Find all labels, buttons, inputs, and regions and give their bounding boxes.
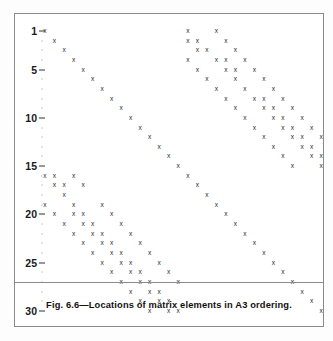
scatter-marker: x: [186, 57, 189, 64]
scatter-marker: x: [81, 182, 84, 189]
scatter-marker: x: [196, 47, 199, 54]
scatter-marker: x: [91, 250, 94, 257]
scatter-marker: x: [243, 86, 246, 93]
scatter-marker: x: [319, 163, 322, 170]
scatter-marker: x: [72, 57, 75, 64]
scatter-marker: x: [196, 182, 199, 189]
y-axis-minor-tick: [41, 40, 43, 41]
y-axis-tick-label: 25: [15, 257, 37, 269]
scatter-marker: x: [148, 134, 151, 141]
scatter-marker: x: [81, 66, 84, 73]
scatter-marker: x: [81, 211, 84, 218]
scatter-marker: x: [205, 192, 208, 199]
y-axis-minor-tick: [41, 252, 43, 253]
scatter-marker: x: [224, 95, 227, 102]
scatter-marker: x: [215, 57, 218, 64]
scatter-marker: x: [234, 221, 237, 228]
scatter-marker: x: [91, 221, 94, 228]
y-axis-minor-tick: [41, 243, 43, 244]
scatter-marker: x: [62, 221, 65, 228]
scatter-marker: x: [177, 163, 180, 170]
scatter-marker: x: [120, 221, 123, 228]
y-axis-tick-mark: [39, 166, 45, 167]
scatter-marker: x: [129, 115, 132, 122]
scatter-marker: x: [291, 124, 294, 131]
y-axis-tick-mark: [39, 117, 45, 118]
scatter-marker: x: [272, 105, 275, 112]
scatter-marker: x: [262, 250, 265, 257]
scatter-marker: x: [43, 201, 46, 208]
scatter-marker: x: [186, 37, 189, 44]
scatter-marker: x: [234, 105, 237, 112]
scatter-marker: x: [262, 76, 265, 83]
scatter-marker: x: [62, 182, 65, 189]
scatter-marker: x: [319, 134, 322, 141]
scatter-marker: x: [300, 134, 303, 141]
scatter-marker: x: [243, 230, 246, 237]
scatter-marker: x: [253, 124, 256, 131]
scatter-marker: x: [196, 37, 199, 44]
scatter-marker: x: [139, 269, 142, 276]
scatter-marker: x: [253, 240, 256, 247]
scatter-marker: x: [310, 144, 313, 151]
scatter-marker: x: [243, 57, 246, 64]
scatter-marker: x: [139, 124, 142, 131]
y-axis-minor-tick: [41, 185, 43, 186]
scatter-marker: x: [148, 250, 151, 257]
scatter-marker: x: [205, 47, 208, 54]
scatter-marker: x: [81, 221, 84, 228]
scatter-marker: x: [300, 115, 303, 122]
scatter-marker: x: [272, 144, 275, 151]
scatter-marker: x: [319, 153, 322, 160]
scatter-marker: x: [53, 211, 56, 218]
scatter-marker: x: [234, 66, 237, 73]
scatter-marker: x: [186, 28, 189, 35]
scatter-marker: x: [129, 259, 132, 266]
scatter-marker: x: [300, 144, 303, 151]
scatter-marker: x: [72, 211, 75, 218]
scatter-marker: x: [196, 66, 199, 73]
scatter-marker: x: [186, 172, 189, 179]
y-axis-tick-label: 1: [15, 25, 37, 37]
scatter-marker: x: [224, 57, 227, 64]
scatter-marker: x: [272, 115, 275, 122]
y-axis-minor-tick: [41, 137, 43, 138]
scatter-marker: x: [281, 115, 284, 122]
scatter-marker: x: [100, 230, 103, 237]
scatter-marker: x: [100, 201, 103, 208]
scatter-marker: x: [272, 259, 275, 266]
y-axis-minor-tick: [41, 59, 43, 60]
y-axis-minor-tick: [41, 195, 43, 196]
scatter-marker: x: [43, 28, 46, 35]
scatter-marker: x: [72, 230, 75, 237]
figure-frame: 151015202530 xxxxxxxxxxxxxxxxxxxxxxxxxxx…: [14, 13, 324, 327]
scatter-marker: x: [262, 105, 265, 112]
scatter-marker: x: [100, 259, 103, 266]
y-axis-tick-mark: [39, 214, 45, 215]
y-axis-tick-label: 15: [15, 160, 37, 172]
scatter-marker: x: [62, 47, 65, 54]
y-axis-minor-tick: [41, 79, 43, 80]
scatter-marker: x: [224, 66, 227, 73]
scatter-marker: x: [91, 230, 94, 237]
scatter-marker: x: [272, 86, 275, 93]
scatter-marker: x: [215, 201, 218, 208]
scatter-marker: x: [215, 28, 218, 35]
scatter-marker: x: [205, 76, 208, 83]
scatter-marker: x: [53, 182, 56, 189]
scatter-marker: x: [234, 47, 237, 54]
scatter-marker: x: [262, 95, 265, 102]
y-axis-minor-tick: [41, 146, 43, 147]
y-axis-minor-tick: [41, 88, 43, 89]
y-axis-tick-mark: [39, 69, 45, 70]
scatter-marker: x: [253, 95, 256, 102]
scatter-marker: x: [72, 201, 75, 208]
scatter-marker: x: [167, 153, 170, 160]
scatter-marker: x: [110, 95, 113, 102]
scatter-marker: x: [110, 250, 113, 257]
y-axis-tick-label: 5: [15, 64, 37, 76]
scatter-marker: x: [129, 269, 132, 276]
scatter-marker: x: [310, 124, 313, 131]
y-axis-minor-tick: [41, 156, 43, 157]
scatter-marker: x: [234, 76, 237, 83]
